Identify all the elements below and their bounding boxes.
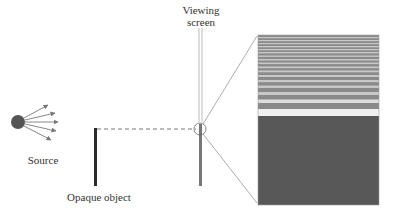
source-label: Source bbox=[18, 154, 68, 166]
viewing-label-line1: Viewing bbox=[178, 4, 224, 16]
viewing-screen-label: Viewing screen bbox=[178, 4, 224, 28]
opaque-object-label: Opaque object bbox=[56, 191, 142, 203]
diffraction-diagram bbox=[0, 0, 395, 213]
viewing-screen bbox=[199, 28, 202, 186]
diffraction-pattern bbox=[258, 35, 379, 205]
opaque-object bbox=[94, 128, 97, 186]
viewing-label-line2: screen bbox=[178, 16, 224, 28]
source-icon bbox=[11, 105, 58, 140]
